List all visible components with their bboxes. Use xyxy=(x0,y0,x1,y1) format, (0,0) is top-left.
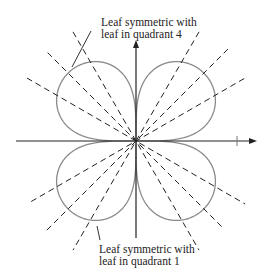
annotation-top-line-2: leaf in quadrant 4 xyxy=(101,28,197,40)
leader-line-bottom xyxy=(97,226,100,240)
y-axis-arrow-icon xyxy=(133,40,139,48)
leader-line-top xyxy=(72,31,91,67)
annotation-bottom-label: Leaf symmetric with leaf in quadrant 1 xyxy=(99,243,195,267)
annotation-bottom-line-1: Leaf symmetric with xyxy=(99,243,195,255)
coordinate-axes xyxy=(16,40,257,238)
annotation-top-line-1: Leaf symmetric with xyxy=(101,16,197,28)
annotation-top-label: Leaf symmetric with leaf in quadrant 4 xyxy=(101,16,197,40)
x-axis-arrow-icon xyxy=(249,138,257,144)
polar-leaf-diagram xyxy=(0,0,269,278)
annotation-bottom-line-2: leaf in quadrant 1 xyxy=(99,255,195,267)
